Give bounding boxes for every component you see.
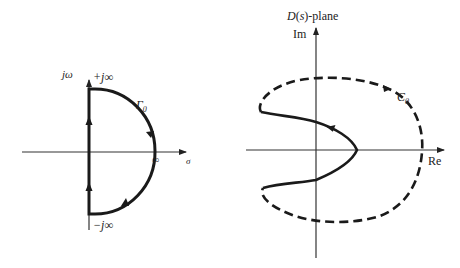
nyquist-diagrams: jω +j∞ −j∞ Γ0 ∞ σ D(s)-plane Im Re C0 — [0, 0, 460, 268]
arrow-dashed-curve-icon — [383, 85, 391, 92]
re-axis-label: Re — [428, 154, 441, 168]
s-plane-diagram: jω +j∞ −j∞ Γ0 ∞ σ — [22, 68, 191, 232]
jw-axis-label: jω — [60, 68, 73, 80]
plus-j-infinity-label: +j∞ — [93, 70, 113, 84]
c0-label: C0 — [397, 90, 409, 106]
sigma-axis-label: σ — [186, 156, 191, 166]
minus-j-infinity-label: −j∞ — [93, 218, 113, 232]
gamma0-label: Γ0 — [135, 98, 147, 114]
arrow-up-icon — [86, 182, 93, 191]
arrow-clockwise-icon — [121, 198, 129, 206]
d-plane-title: D(s)-plane — [286, 9, 338, 23]
d-plane-diagram: D(s)-plane Im Re C0 — [246, 9, 444, 258]
im-axis-label: Im — [293, 27, 307, 41]
arrow-up-icon — [86, 116, 93, 125]
infinity-label: ∞ — [152, 154, 159, 165]
